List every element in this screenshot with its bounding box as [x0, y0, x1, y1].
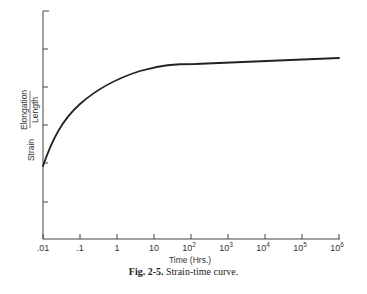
- x-tick-labels: .01 .1 1 10 102 103 104 105 106: [37, 241, 344, 253]
- x-ticks: [43, 234, 339, 239]
- svg-text:106: 106: [330, 241, 344, 253]
- x-axis-title: Time (Hrs.): [169, 255, 211, 265]
- svg-text:Elongation: Elongation: [19, 90, 29, 130]
- svg-text:102: 102: [182, 241, 196, 253]
- svg-text:10: 10: [149, 243, 159, 253]
- y-ticks: [43, 11, 49, 202]
- svg-text:104: 104: [256, 241, 270, 253]
- y-axis-title: Strain Elongation Length: [19, 90, 40, 161]
- svg-text:103: 103: [219, 241, 233, 253]
- figure-caption: Fig. 2-5. Strain-time curve.: [0, 266, 367, 277]
- strain-time-chart: .01 .1 1 10 102 103 104 105 106 Time (Hr…: [0, 0, 367, 294]
- figure-caption-text: Strain-time curve.: [166, 266, 238, 277]
- strain-curve: [43, 58, 339, 166]
- svg-text:Strain: Strain: [26, 139, 36, 161]
- svg-text:1: 1: [114, 243, 119, 253]
- svg-text:.01: .01: [37, 243, 50, 253]
- svg-text:.1: .1: [76, 243, 84, 253]
- figure-label: Fig. 2-5.: [129, 266, 164, 277]
- svg-text:Length: Length: [30, 97, 40, 123]
- svg-text:105: 105: [293, 241, 307, 253]
